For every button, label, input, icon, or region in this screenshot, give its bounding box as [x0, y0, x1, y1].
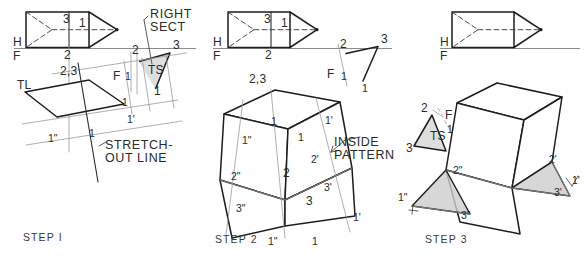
step2-f-tick: F: [327, 67, 335, 81]
step2-num-1-bot: 1: [312, 235, 318, 247]
step2-top-num-3: 3: [264, 12, 271, 26]
step1-aux-num-3: 3: [173, 38, 180, 52]
step2-num-2dprime: 2": [231, 170, 241, 182]
step1-caption: STEP I: [23, 231, 63, 243]
top-view-hidden-vee-step2: [228, 12, 254, 48]
step2-label-h: H: [213, 35, 222, 49]
step3-label-h: H: [440, 35, 449, 49]
section-triangle-step2: [346, 47, 378, 82]
top-view-hidden-vee-step3: [452, 12, 478, 48]
step1-front-num-1: 1: [125, 70, 131, 82]
step2-group: 3 1 2 H F 2 3 1 F 1: [213, 12, 395, 247]
step3-num-1prime: 1': [572, 174, 580, 186]
step2-num-2prime: 2': [311, 153, 319, 165]
step2-num-2: 2: [283, 166, 290, 180]
step2-aux-num-3: 3: [381, 32, 388, 46]
tl-label-step1: TL: [17, 78, 32, 92]
technical-drawing-figure: 3 1 2 H F 2 3 1 RIGHT SECT TS 2,3 1 F TL…: [0, 0, 587, 259]
step2-num-1prime-top: 1': [325, 114, 333, 126]
top-view-apex-dot-step2: [315, 28, 318, 31]
step2-num-3dprime: 3": [236, 202, 246, 214]
step3-ts-num-3: 3: [406, 141, 413, 155]
step1-top-num-2: 2: [64, 48, 71, 62]
stretchout-label-line1: STRETCH-: [105, 138, 173, 152]
step2-num-3prime: 3': [324, 181, 332, 193]
step2-num-3: 3: [306, 194, 313, 208]
step1-top-num-3: 3: [63, 12, 70, 26]
top-view-hidden-vee: [26, 12, 52, 48]
step2-label-f: F: [213, 49, 220, 63]
ts-label-step3: TS: [430, 129, 446, 143]
step2-num-1-top: 1: [271, 115, 277, 127]
step3-num-3dprime: 3": [461, 209, 471, 221]
step2-caption: STEP 2: [215, 233, 258, 245]
step3-num-1dprime: 1": [398, 191, 408, 203]
inside-pattern-label-line1: INSIDE: [334, 135, 379, 149]
step3-label-f: F: [440, 49, 447, 63]
step1-front-num-23: 2,3: [60, 64, 77, 78]
inside-pattern-label-line2: PATTERN: [334, 148, 395, 162]
top-view-apex-dot: [115, 28, 118, 31]
step1-top-view: [26, 12, 119, 48]
step1-so-num-1prime: 1': [127, 113, 135, 125]
step1-so-num-1b: 1: [89, 127, 95, 139]
stretchout-tick-c: [166, 55, 174, 108]
top-view-apex-dot-step3: [539, 28, 542, 31]
step1-aux-num-2: 2: [132, 43, 139, 57]
step2-num-1dprime-top: 1": [242, 134, 252, 146]
step3-num-3prime: 3': [554, 186, 562, 198]
stretchout-label-line2: OUT LINE: [105, 151, 167, 165]
step2-num-1prime-bot: 1': [353, 211, 361, 223]
step1-label-f: F: [13, 49, 20, 63]
step1-aux-num-1: 1: [154, 84, 161, 98]
step1-f-tick: F: [113, 69, 121, 83]
step2-num-23: 2,3: [249, 72, 266, 86]
step3-f-tick: F: [445, 108, 453, 122]
drawing-canvas: 3 1 2 H F 2 3 1 RIGHT SECT TS 2,3 1 F TL…: [0, 0, 587, 259]
step1-group: 3 1 2 H F 2 3 1 RIGHT SECT TS 2,3 1 F TL…: [13, 7, 196, 243]
step1-so-num-1a: 1: [122, 96, 128, 108]
step3-ts-num-2: 2: [421, 101, 428, 115]
ts-label-step1: TS: [148, 63, 164, 77]
step1-top-num-1: 1: [79, 16, 86, 30]
step3-group: H F 2 3 1 F 1: [398, 12, 580, 245]
step3-top-view: [452, 12, 543, 48]
step2-num-1-mid: 1: [298, 131, 304, 143]
right-sect-label-line2: SECT: [150, 20, 186, 34]
tl-parallelogram: [25, 80, 124, 117]
step2-num-1dprime-bot: 1": [268, 235, 278, 247]
step1-so-num-1dprime: 1": [48, 132, 58, 144]
step1-label-h: H: [13, 35, 22, 49]
step2-f-tick-num1: 1: [341, 70, 347, 82]
right-sect-label-line1: RIGHT: [150, 7, 192, 21]
step2-top-num-1: 1: [281, 16, 288, 30]
step2-top-num-2: 2: [265, 48, 272, 62]
step3-num-2dprime: 2": [453, 164, 463, 176]
step2-aux-num-1: 1: [362, 82, 368, 94]
step3-caption: STEP 3: [425, 233, 468, 245]
step2-aux-num-2: 2: [340, 37, 347, 51]
step2-top-view: [228, 12, 319, 48]
step3-num-2prime: 2': [549, 153, 557, 165]
